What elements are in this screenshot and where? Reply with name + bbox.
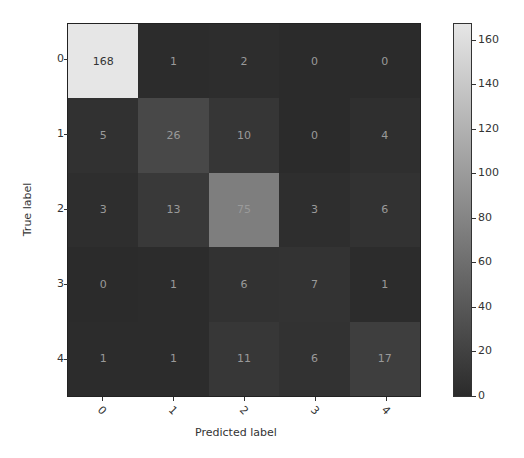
matrix-cell: 13 <box>138 173 208 247</box>
matrix-cell: 6 <box>279 322 349 396</box>
colorbar-tick-label: 100 <box>478 166 499 179</box>
x-tick-label: 4 <box>377 402 393 418</box>
x-tick-mark <box>102 397 103 401</box>
matrix-cell: 75 <box>209 173 279 247</box>
colorbar-tick-label: 80 <box>478 211 492 224</box>
matrix-cell: 5 <box>68 98 138 172</box>
y-tick-label: 2 <box>40 202 64 215</box>
colorbar-tick-label: 40 <box>478 300 492 313</box>
colorbar-tick-label: 160 <box>478 33 499 46</box>
matrix-cell: 1 <box>138 322 208 396</box>
matrix-cell: 3 <box>68 173 138 247</box>
matrix-cell: 1 <box>68 322 138 396</box>
colorbar-tick-label: 0 <box>478 389 485 402</box>
matrix-cell: 3 <box>279 173 349 247</box>
colorbar-tick-label: 140 <box>478 77 499 90</box>
matrix-cell: 26 <box>138 98 208 172</box>
y-axis-label: True label <box>21 175 34 245</box>
matrix-cell: 1 <box>350 247 420 321</box>
colorbar-tick-label: 120 <box>478 122 499 135</box>
matrix-cell: 11 <box>209 322 279 396</box>
y-tick-label: 1 <box>40 127 64 140</box>
x-tick-label: 2 <box>236 402 252 418</box>
matrix-cell: 6 <box>350 173 420 247</box>
colorbar-tick-label: 20 <box>478 344 492 357</box>
y-tick-label: 3 <box>40 277 64 290</box>
matrix-cell: 4 <box>350 98 420 172</box>
x-axis-label: Predicted label <box>195 426 277 439</box>
matrix-cell: 2 <box>209 24 279 98</box>
matrix-cell: 0 <box>279 98 349 172</box>
colorbar <box>453 23 472 397</box>
matrix-cell: 0 <box>350 24 420 98</box>
x-tick-label: 1 <box>165 402 181 418</box>
x-tick-mark <box>244 397 245 401</box>
x-tick-mark <box>173 397 174 401</box>
matrix-cell: 10 <box>209 98 279 172</box>
x-tick-mark <box>315 397 316 401</box>
matrix-cell: 6 <box>209 247 279 321</box>
matrix-cell: 1 <box>138 247 208 321</box>
x-tick-mark <box>386 397 387 401</box>
matrix-cell: 17 <box>350 322 420 396</box>
matrix-cell: 7 <box>279 247 349 321</box>
confusion-matrix-plot: 168120052610043137536016711111617 <box>67 23 421 397</box>
matrix-cell: 0 <box>68 247 138 321</box>
matrix-cell: 168 <box>68 24 138 98</box>
colorbar-tick-label: 60 <box>478 255 492 268</box>
y-tick-label: 0 <box>40 52 64 65</box>
matrix-cell: 1 <box>138 24 208 98</box>
y-tick-label: 4 <box>40 352 64 365</box>
x-tick-label: 3 <box>307 402 323 418</box>
x-tick-label: 0 <box>94 402 110 418</box>
matrix-cell: 0 <box>279 24 349 98</box>
